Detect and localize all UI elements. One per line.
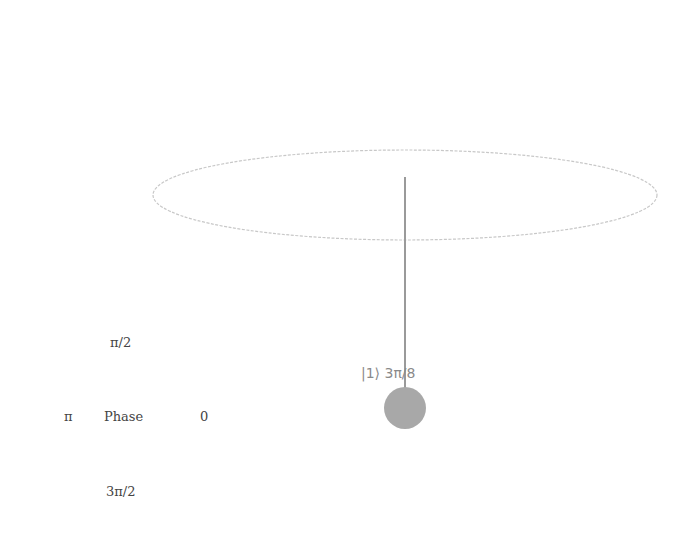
phase-legend-title: Phase [104, 409, 143, 424]
phase-legend-top: π/2 [110, 335, 131, 350]
qsphere-canvas [0, 0, 677, 538]
state-label: |1⟩ 3π/8 [361, 365, 416, 381]
phase-legend-left: π [64, 409, 73, 424]
phase-legend-bottom: 3π/2 [106, 484, 135, 499]
phase-legend-right: 0 [200, 409, 208, 424]
state-point [384, 387, 426, 429]
